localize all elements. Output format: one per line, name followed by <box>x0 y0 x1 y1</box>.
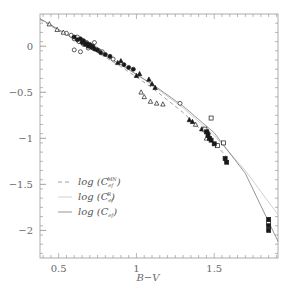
model-curves <box>40 19 278 242</box>
circle-open-marker <box>178 101 182 105</box>
y-tick-label: −2 <box>18 225 33 236</box>
y-tick-label: −1 <box>18 133 33 144</box>
legend-label: log (CefMN) <box>78 176 121 189</box>
legend: log (CefMN)log (CefR)log (Cef) <box>58 176 121 219</box>
square-filled-marker <box>225 160 229 164</box>
square-filled-marker <box>267 224 271 228</box>
circle-open-marker <box>78 50 82 54</box>
y-tick-label: 0 <box>27 41 33 52</box>
circle-filled-marker <box>122 63 126 67</box>
x-tick-label: 0.5 <box>51 263 67 274</box>
curve-solid-light <box>40 19 278 215</box>
circle-open-marker <box>72 48 76 52</box>
square-filled-marker <box>267 228 271 232</box>
x-tick-label: 1.5 <box>206 263 222 274</box>
x-axis-label: B−V <box>136 272 162 283</box>
curve-dashed <box>40 20 230 161</box>
square-filled-marker <box>212 142 216 146</box>
triangle-filled-marker <box>137 71 141 75</box>
triangle-filled-marker <box>187 117 191 121</box>
triangle-open-marker <box>139 90 143 94</box>
y-tick-label: −1.5 <box>9 179 33 190</box>
triangle-open-marker <box>161 102 165 106</box>
square-open-marker <box>222 141 226 145</box>
curve-solid <box>40 19 278 242</box>
tick-labels: 0.511.50−0.5−1−1.5−2 <box>9 41 222 274</box>
circle-filled-marker <box>103 53 107 57</box>
scatter-chart: 0.511.50−0.5−1−1.5−2 log (CefMN)log (Cef… <box>0 0 289 291</box>
triangle-filled-marker <box>147 77 151 81</box>
triangle-open-marker <box>154 101 158 105</box>
circle-filled-marker <box>99 51 103 55</box>
circle-filled-marker <box>131 67 135 71</box>
square-filled-marker <box>267 217 271 221</box>
legend-label: log (Cef) <box>78 206 117 219</box>
triangle-filled-marker <box>119 59 123 63</box>
circle-filled-marker <box>108 54 112 58</box>
y-tick-label: −0.5 <box>9 87 33 98</box>
triangle-open-marker <box>142 94 146 98</box>
square-open-marker <box>209 116 213 120</box>
triangle-open-marker <box>148 99 152 103</box>
circle-filled-marker <box>127 65 131 69</box>
legend-label: log (CefR) <box>78 191 115 204</box>
